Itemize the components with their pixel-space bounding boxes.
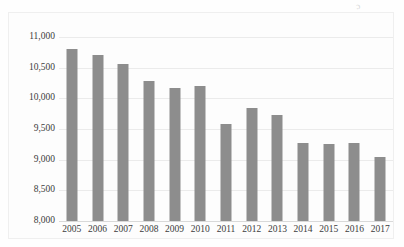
bar-slot <box>213 37 239 221</box>
y-axis-tick-label: 8,000 <box>34 216 55 226</box>
gridline <box>59 221 393 222</box>
bar <box>375 157 386 221</box>
bar-slot <box>239 37 265 221</box>
y-axis-tick-label: 11,000 <box>29 32 55 42</box>
bar-slot <box>187 37 213 221</box>
x-axis-tick-label: 2014 <box>290 225 316 235</box>
bar <box>66 49 77 221</box>
bar-series <box>59 37 393 221</box>
x-axis-tick-label: 2005 <box>59 225 85 235</box>
bar-slot <box>316 37 342 221</box>
bar <box>169 88 180 221</box>
bar <box>272 115 283 221</box>
x-axis-tick-label: 2013 <box>265 225 291 235</box>
x-axis-tick-label: 2012 <box>239 225 265 235</box>
bar-slot <box>290 37 316 221</box>
y-axis-tick-label: 9,000 <box>34 155 55 165</box>
bar-slot <box>110 37 136 221</box>
bar <box>143 81 154 221</box>
x-axis-tick-label: 2016 <box>342 225 368 235</box>
chart-figure: ɔ 11,00010,50010,0009,5009,0008,5008,000… <box>0 0 404 247</box>
bar <box>246 108 257 221</box>
bar-slot <box>85 37 111 221</box>
x-axis-tick-label: 2017 <box>367 225 393 235</box>
x-axis-tick-label: 2007 <box>110 225 136 235</box>
y-axis-tick-label: 10,000 <box>29 93 55 103</box>
bar <box>323 144 334 221</box>
plot-area <box>59 37 393 221</box>
bar <box>92 55 103 221</box>
bar-slot <box>342 37 368 221</box>
bar <box>195 86 206 221</box>
x-axis-tick-label: 2015 <box>316 225 342 235</box>
scan-artifact-mark: ɔ <box>355 1 361 12</box>
x-axis-tick-label: 2011 <box>213 225 239 235</box>
x-axis-tick-label: 2009 <box>162 225 188 235</box>
y-axis: 11,00010,50010,0009,5009,0008,5008,000 <box>17 37 55 221</box>
bar-slot <box>136 37 162 221</box>
bar <box>118 64 129 221</box>
bar-slot <box>59 37 85 221</box>
x-axis-tick-label: 2010 <box>187 225 213 235</box>
x-axis-tick-label: 2008 <box>136 225 162 235</box>
x-axis-tick-label: 2006 <box>85 225 111 235</box>
y-axis-tick-label: 10,500 <box>29 63 55 73</box>
bar-slot <box>265 37 291 221</box>
bar <box>349 143 360 221</box>
bar <box>220 124 231 221</box>
bar-slot <box>162 37 188 221</box>
plot-frame: 11,00010,50010,0009,5009,0008,5008,000 2… <box>8 12 394 239</box>
y-axis-tick-label: 8,500 <box>34 185 55 195</box>
x-axis: 2005200620072008200920102011201220132014… <box>59 225 393 243</box>
bar <box>298 143 309 222</box>
bar-slot <box>367 37 393 221</box>
y-axis-tick-label: 9,500 <box>34 124 55 134</box>
